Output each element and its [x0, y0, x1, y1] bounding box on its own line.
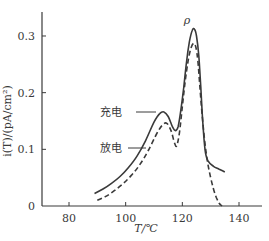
x-tick-label: 80	[62, 212, 76, 225]
y-axis-title: i(T)/(pA/cm²)	[1, 85, 14, 156]
chart: 00.10.20.380100120140 充电 放电 ρ T/℃ i(T)/(…	[0, 0, 269, 241]
legend-charge-label: 充电	[100, 105, 122, 119]
legend-discharge-label: 放电	[100, 141, 122, 155]
y-tick-label: 0.1	[18, 143, 36, 156]
y-tick-label: 0.3	[18, 30, 36, 43]
y-tick-label: 0	[28, 200, 35, 213]
axes: 00.10.20.380100120140	[18, 12, 263, 225]
x-tick-label: 100	[115, 212, 136, 225]
y-tick-label: 0.2	[18, 87, 36, 100]
peak-label: ρ	[183, 14, 191, 27]
x-tick-label: 120	[172, 212, 193, 225]
x-axis-title: T/℃	[134, 222, 158, 235]
x-tick-label: 140	[229, 212, 250, 225]
